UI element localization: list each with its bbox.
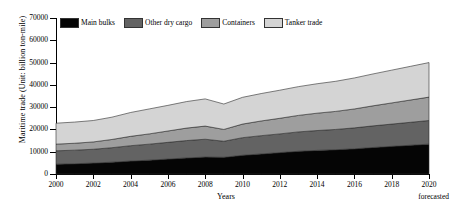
legend-item-other-dry-cargo[interactable]: Other dry cargo — [124, 18, 192, 28]
chart-legend: Main bulksOther dry cargoContainersTanke… — [60, 18, 322, 28]
legend-item-containers[interactable]: Containers — [201, 18, 255, 28]
legend-label: Containers — [222, 19, 255, 27]
legend-swatch — [264, 18, 283, 28]
forecast-annotation: forecasted — [418, 192, 449, 201]
legend-item-main-bulks[interactable]: Main bulks — [60, 18, 115, 28]
maritime-trade-area-chart: Maritime trade (Unit: billion ton-mile) … — [0, 0, 452, 211]
stacked-area-series-group — [0, 0, 452, 211]
legend-label: Tanker trade — [285, 19, 323, 27]
legend-swatch — [201, 18, 220, 28]
legend-item-tanker-trade[interactable]: Tanker trade — [264, 18, 323, 28]
legend-label: Main bulks — [81, 19, 115, 27]
x-axis-title: Years — [0, 192, 452, 201]
legend-label: Other dry cargo — [145, 19, 192, 27]
legend-swatch — [124, 18, 143, 28]
legend-swatch — [60, 18, 79, 28]
